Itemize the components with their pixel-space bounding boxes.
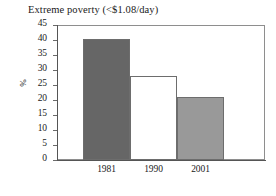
y-tick-label: 5 [42, 138, 47, 148]
chart-title: Extreme poverty (<$1.08/day) [28, 3, 158, 16]
bar [177, 97, 224, 160]
x-tick-label: 1990 [130, 164, 177, 174]
bar-chart-figure: Extreme poverty (<$1.08/day) % 454035302… [0, 0, 276, 196]
x-tick-label: 2001 [177, 164, 224, 174]
y-axis-label: % [18, 70, 28, 96]
y-tick-label: 45 [38, 18, 47, 28]
y-tick-label: 0 [42, 153, 47, 163]
bars-layer [57, 25, 265, 160]
y-tick-mark [53, 160, 57, 161]
y-tick-label: 15 [38, 108, 47, 118]
y-tick-label: 40 [38, 33, 47, 43]
y-tick-label: 25 [38, 78, 47, 88]
y-tick-label: 35 [38, 48, 47, 58]
y-tick-label: 30 [38, 63, 47, 73]
bar [130, 76, 177, 160]
bar [83, 39, 130, 161]
y-tick-label: 10 [38, 123, 47, 133]
x-tick-label: 1981 [83, 164, 130, 174]
y-tick-label: 20 [38, 93, 47, 103]
x-axis-line [57, 160, 266, 161]
